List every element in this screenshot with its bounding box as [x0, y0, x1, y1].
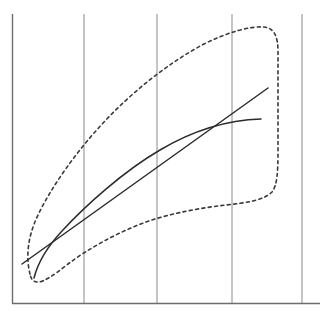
- plot-canvas: [0, 0, 330, 316]
- caption-strip: [0, 305, 330, 316]
- figure-container: [0, 0, 330, 316]
- plot-background: [0, 0, 330, 316]
